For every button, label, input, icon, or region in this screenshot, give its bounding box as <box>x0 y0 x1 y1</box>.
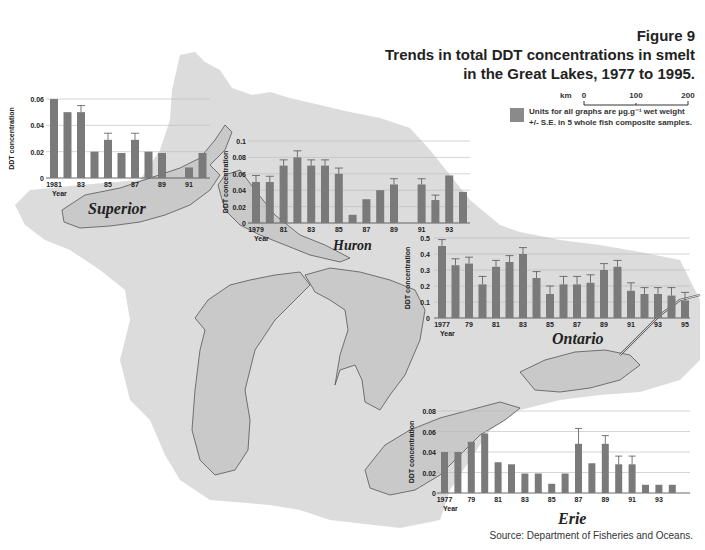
x-tick-label: 91 <box>628 496 636 503</box>
error-bar <box>104 133 112 140</box>
bar-1993 <box>445 175 453 223</box>
bar-1988 <box>376 190 384 223</box>
bar-1992 <box>199 153 207 178</box>
x-tick-label: 89 <box>601 496 609 503</box>
legend-swatch <box>510 108 524 122</box>
bar-1991 <box>185 167 193 178</box>
bar-1981 <box>280 166 288 223</box>
y-axis-label: DDT concentration <box>404 247 411 310</box>
bar-1986 <box>118 153 126 178</box>
label-ontario: Ontario <box>552 330 604 348</box>
bar-1984 <box>533 278 541 318</box>
x-tick-label: 89 <box>390 226 398 233</box>
bar-1980 <box>479 284 487 318</box>
x-tick-label: 93 <box>654 321 662 328</box>
error-bar <box>492 260 500 266</box>
error-bar <box>627 283 635 291</box>
x-tick-label: 81 <box>492 321 500 328</box>
figure-title-line1: Trends in total DDT concentrations in sm… <box>385 45 695 64</box>
x-tick-label: 79 <box>467 496 475 503</box>
error-bar <box>629 456 636 464</box>
error-bar <box>533 272 541 278</box>
bar-1989 <box>602 444 609 493</box>
figure-title-line2: in the Great Lakes, 1977 to 1995. <box>385 64 695 83</box>
y-tick-label: 0 <box>426 315 430 322</box>
bar-1984 <box>321 166 329 223</box>
svg-text:100: 100 <box>629 91 643 100</box>
bar-1982 <box>293 157 301 223</box>
error-bar <box>452 259 460 265</box>
y-tick-label: 0.06 <box>30 96 44 103</box>
x-tick-label: 91 <box>185 181 193 188</box>
x-tick-label: 81 <box>494 496 502 503</box>
bar-1988 <box>588 463 595 493</box>
bar-1977 <box>441 452 448 493</box>
bar-1991 <box>627 291 635 318</box>
y-axis-label: DDT concentration <box>222 151 229 214</box>
label-erie: Erie <box>558 510 586 528</box>
x-axis-label: Year <box>52 190 67 197</box>
x-tick-label: 1981 <box>46 181 62 188</box>
bar-1987 <box>573 284 581 318</box>
x-tick-label: 89 <box>600 321 608 328</box>
error-bar <box>600 264 608 270</box>
figure-number: Figure 9 <box>385 26 695 45</box>
bar-1982 <box>508 464 515 493</box>
error-bar <box>390 179 398 185</box>
bar-1981 <box>492 267 500 318</box>
y-tick-label: 0.04 <box>422 449 436 456</box>
y-tick-label: 0.04 <box>30 122 44 129</box>
bar-1985 <box>335 174 343 223</box>
error-bar <box>465 257 473 263</box>
error-bar <box>546 286 554 294</box>
x-tick-label: 87 <box>573 321 581 328</box>
x-tick-label: 81 <box>280 226 288 233</box>
bar-1988 <box>587 283 595 318</box>
x-tick-label: 87 <box>575 496 583 503</box>
bar-1986 <box>560 284 568 318</box>
legend-line1: Units for all graphs are µg.g⁻¹ wet weig… <box>529 106 692 117</box>
bar-1988 <box>145 152 153 178</box>
y-tick-label: 0.08 <box>232 154 246 161</box>
error-bar <box>506 256 514 262</box>
error-bar <box>573 276 581 284</box>
legend-text: Units for all graphs are µg.g⁻¹ wet weig… <box>529 106 692 128</box>
y-tick-label: 0 <box>40 175 44 182</box>
y-tick-label: 0.08 <box>422 408 436 415</box>
svg-text:200: 200 <box>681 91 695 100</box>
error-bar <box>681 292 689 300</box>
y-tick-label: 0.04 <box>232 187 246 194</box>
svg-text:km: km <box>560 91 572 100</box>
bar-1995 <box>681 300 689 318</box>
x-tick-label: 83 <box>519 321 527 328</box>
bar-1990 <box>614 267 622 318</box>
bar-1978 <box>452 265 460 318</box>
figure-title-block: Figure 9 Trends in total DDT concentrati… <box>385 26 695 83</box>
bar-1989 <box>600 270 608 318</box>
error-bar <box>614 260 622 266</box>
y-tick-label: 0.1 <box>420 299 430 306</box>
error-bar <box>575 428 582 443</box>
bar-1984 <box>535 474 542 493</box>
svg-text:0: 0 <box>582 91 587 100</box>
error-bar <box>519 248 527 254</box>
error-bar <box>641 288 649 294</box>
x-axis-label: Year <box>443 505 458 512</box>
x-tick-label: 83 <box>307 226 315 233</box>
bar-1994 <box>668 296 676 318</box>
error-bar <box>615 456 622 464</box>
bar-1978 <box>454 452 461 493</box>
y-tick-label: 0.2 <box>420 283 430 290</box>
y-tick-label: 0.4 <box>420 251 430 258</box>
y-axis-label: DDT concentration <box>408 421 415 484</box>
x-tick-label: 93 <box>445 226 453 233</box>
y-tick-label: 0.02 <box>422 470 436 477</box>
bar-1985 <box>104 140 112 178</box>
x-tick-label: 83 <box>521 496 529 503</box>
bar-1993 <box>655 485 662 493</box>
bar-1987 <box>362 199 370 223</box>
y-tick-label: 0.06 <box>422 429 436 436</box>
bar-1985 <box>548 484 555 493</box>
error-bar <box>321 160 329 166</box>
bar-1984 <box>91 152 99 178</box>
